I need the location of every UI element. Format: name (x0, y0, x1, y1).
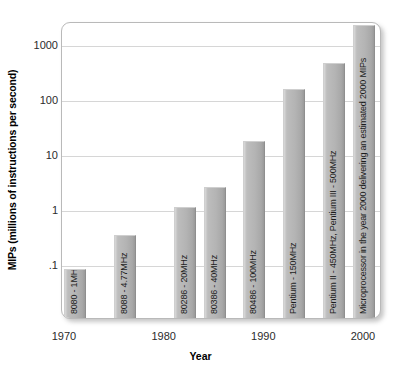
bar-label: Microprocessor in the year 2000 deliveri… (358, 58, 368, 314)
bar: 80286 - 20MHz (174, 207, 196, 318)
gridline (62, 46, 380, 47)
bar-label: 80486 - 100MHz (248, 250, 258, 314)
bar: 8080 - 1MHz (64, 269, 86, 318)
bar-label: 80286 - 20MHz (179, 255, 189, 314)
bar-label: Pentium - 150MHz (288, 243, 298, 314)
plot-area: 8080 - 1MHz8088 - 4.77MHz80286 - 20MHz80… (61, 22, 381, 319)
bar: 8088 - 4.77MHz (114, 235, 136, 318)
bar-label: 8088 - 4.77MHz (119, 253, 129, 314)
x-tick-label: 1980 (134, 330, 194, 342)
bar: Microprocessor in the year 2000 deliveri… (353, 25, 375, 318)
plot-inner: 8080 - 1MHz8088 - 4.77MHz80286 - 20MHz80… (62, 23, 380, 318)
y-axis-title: MIPs (millions of instructions per secon… (6, 55, 18, 285)
x-tick-label: 1990 (233, 330, 293, 342)
x-axis-tick-labels: 1970198019902000 (0, 330, 401, 346)
y-tick-label: 100 (18, 94, 58, 106)
bar-label: 80386 - 40MHz (209, 255, 219, 314)
x-tick-label: 1970 (34, 330, 94, 342)
bar: Pentium - 150MHz (283, 89, 305, 318)
bar-label: 8080 - 1MHz (69, 269, 79, 314)
x-tick-label: 2000 (333, 330, 393, 342)
bar: 80486 - 100MHz (243, 141, 265, 318)
y-tick-label: 10 (18, 149, 58, 161)
bar: Pentium II - 450MHz, Pentium III - 500MH… (323, 63, 345, 318)
y-tick-label: 1000 (18, 39, 58, 51)
y-tick-label: 1 (18, 204, 58, 216)
y-axis-tick-labels: 1000100101.1 (18, 0, 58, 368)
bar-label: Pentium II - 450MHz, Pentium III - 500MH… (328, 151, 338, 314)
y-tick-label: .1 (18, 259, 58, 271)
x-axis-title: Year (0, 350, 401, 362)
mips-bar-chart: MIPs (millions of instructions per secon… (0, 0, 401, 368)
bar: 80386 - 40MHz (204, 187, 226, 318)
